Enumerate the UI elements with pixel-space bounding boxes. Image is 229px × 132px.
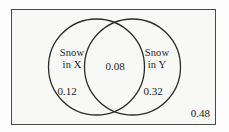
set-label-snow-in-y: Snow in Y xyxy=(134,47,180,70)
set-label-snow-in-x: Snow in X xyxy=(49,47,95,70)
region-value-left-only: 0.12 xyxy=(47,85,87,97)
region-value-intersection: 0.08 xyxy=(92,60,138,72)
region-value-right-only: 0.32 xyxy=(133,85,173,97)
region-value-outside: 0.48 xyxy=(168,107,210,119)
venn-diagram-figure: Snow in X Snow in Y 0.08 0.12 0.32 0.48 xyxy=(0,0,229,132)
